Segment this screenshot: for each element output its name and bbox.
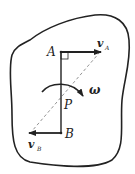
svg-text:B: B bbox=[36, 145, 42, 152]
svg-text:v: v bbox=[28, 138, 35, 151]
right-angle-marker bbox=[61, 52, 68, 59]
point-b-dot bbox=[60, 132, 63, 135]
angular-velocity-arc bbox=[42, 84, 83, 96]
label-velocity-b: v B bbox=[28, 138, 42, 152]
label-point-p: P bbox=[63, 98, 73, 112]
label-velocity-a: v A bbox=[97, 37, 110, 51]
svg-text:A: A bbox=[104, 44, 110, 51]
label-point-b: B bbox=[64, 127, 74, 141]
label-omega: ω bbox=[89, 83, 101, 97]
svg-text:v: v bbox=[97, 37, 104, 50]
point-a-dot bbox=[60, 51, 63, 54]
velocity-diagram: A B P ω v A v B bbox=[0, 0, 135, 174]
label-point-a: A bbox=[46, 45, 56, 59]
